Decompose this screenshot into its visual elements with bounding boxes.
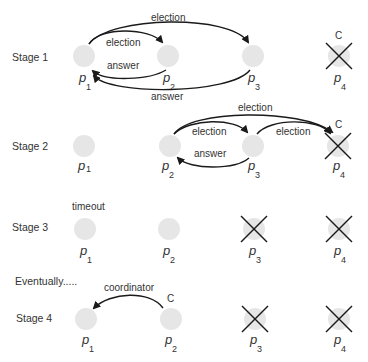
p4-label: p [332, 158, 340, 173]
process-p1-node [74, 218, 96, 240]
svg-text:election: election [276, 126, 310, 137]
arrow-answer-p2-p1 [93, 70, 166, 78]
stage-2: Stage 2 C p 1 p 2 p 3 p 4 election elect… [12, 102, 351, 180]
p3-label: p [248, 243, 256, 258]
svg-text:election: election [106, 37, 140, 48]
svg-text:1: 1 [87, 255, 92, 265]
svg-text:3: 3 [256, 255, 261, 265]
p1-label: p [81, 332, 89, 347]
p4-label: p [333, 332, 341, 347]
svg-text:4: 4 [340, 170, 345, 180]
arrow-coordinator-p2-p1 [94, 295, 163, 308]
process-p1-node [73, 45, 95, 67]
stage-1: Stage 1 C p 1 p 2 p 3 p 4 election elect… [12, 12, 352, 102]
svg-text:1: 1 [89, 344, 94, 354]
stage-3-label: Stage 3 [12, 221, 48, 233]
p4-label: p [333, 70, 341, 85]
process-p3-crashed [241, 216, 267, 242]
process-p2-node [159, 135, 181, 157]
process-p4-crashed [326, 306, 352, 332]
p2-label: p [161, 158, 169, 173]
svg-text:election: election [151, 12, 185, 23]
process-p2-node [160, 308, 182, 330]
svg-text:1: 1 [86, 164, 91, 174]
coordinator-marker: C [167, 293, 174, 304]
svg-text:answer: answer [151, 91, 184, 102]
process-p1-node [75, 308, 97, 330]
arrow-answer-p3-p2 [178, 158, 249, 167]
timeout-annotation: timeout [72, 201, 105, 212]
svg-text:election: election [192, 126, 226, 137]
bully-algorithm-diagram: Stage 1 C p 1 p 2 p 3 p 4 election elect… [0, 0, 368, 362]
eventually-label: Eventually..... [15, 275, 77, 287]
svg-text:2: 2 [170, 255, 175, 265]
stage-4-label: Stage 4 [16, 312, 52, 324]
svg-text:2: 2 [169, 170, 174, 180]
svg-text:answer: answer [194, 148, 227, 159]
coordinator-marker: C [335, 119, 342, 130]
svg-text:4: 4 [341, 82, 346, 92]
svg-text:2: 2 [172, 344, 177, 354]
process-p3-node [242, 45, 264, 67]
svg-text:4: 4 [341, 344, 346, 354]
process-p1-node [73, 135, 95, 157]
svg-text:3: 3 [255, 170, 260, 180]
process-p3-crashed [242, 306, 268, 332]
svg-text:1: 1 [86, 82, 91, 92]
p1-label: p [79, 243, 87, 258]
p2-label: p [164, 332, 172, 347]
stage-3: Stage 3 timeout p 1 p 2 p 3 p 4 [12, 201, 352, 265]
svg-text:3: 3 [257, 344, 262, 354]
stage-2-label: Stage 2 [12, 140, 48, 152]
process-p4-crashed [325, 133, 351, 159]
svg-text:coordinator: coordinator [104, 282, 155, 293]
stage-4: Stage 4 C coordinator p 1 p 2 p 3 p 4 [16, 282, 352, 354]
p3-label: p [249, 332, 257, 347]
svg-text:answer: answer [107, 60, 140, 71]
p3-label: p [247, 158, 255, 173]
svg-text:4: 4 [341, 255, 346, 265]
process-p2-node [157, 45, 179, 67]
p4-label: p [333, 243, 341, 258]
p1-label: p [78, 70, 86, 85]
process-p4-crashed [326, 216, 352, 242]
p2-label: p [162, 243, 170, 258]
process-p3-node [242, 135, 264, 157]
process-p4-crashed [326, 43, 352, 69]
stage-1-label: Stage 1 [12, 51, 48, 63]
coordinator-marker: C [335, 30, 342, 41]
svg-text:election: election [238, 102, 272, 113]
svg-text:3: 3 [255, 82, 260, 92]
process-p2-node [158, 218, 180, 240]
p1-label: p [77, 158, 85, 173]
